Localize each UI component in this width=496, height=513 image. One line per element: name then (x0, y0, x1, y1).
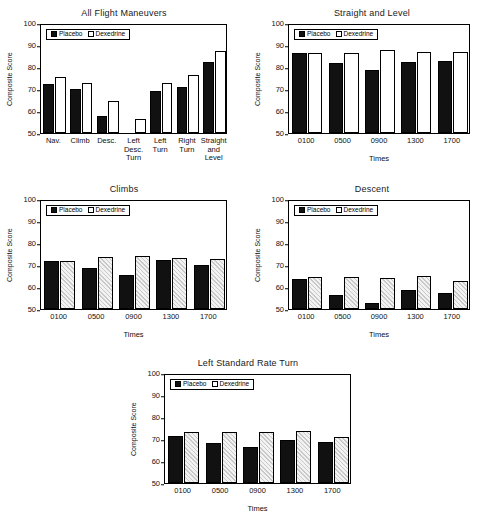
chart-title: Descent (248, 184, 496, 194)
y-tick-label: 70 (152, 436, 160, 444)
bar-dexedrine (417, 52, 432, 133)
y-tick-label: 70 (276, 86, 284, 94)
chart-panel: Straight and LevelComposite Score1009080… (248, 0, 496, 176)
bars-area (289, 201, 469, 309)
bar-group (202, 375, 239, 483)
y-tick-label: 80 (28, 64, 36, 72)
legend-label: Placebo (59, 207, 83, 214)
bar-placebo (365, 303, 380, 309)
bar-dexedrine (172, 258, 187, 309)
y-tick-label: 100 (271, 20, 284, 28)
bar-placebo (150, 91, 161, 133)
bar-placebo (156, 260, 171, 309)
bar-placebo (438, 293, 453, 309)
y-tick-label: 90 (28, 42, 36, 50)
bar-dexedrine (308, 277, 323, 309)
bar-dexedrine (135, 256, 150, 309)
y-tick-label: 90 (276, 218, 284, 226)
bar-placebo (401, 290, 416, 309)
legend: PlaceboDexedrine (46, 205, 130, 216)
y-tick-label: 100 (271, 196, 284, 204)
bar-placebo (168, 436, 183, 483)
x-axis-label: Times (40, 330, 227, 339)
bar-group (153, 201, 190, 309)
bar-placebo (177, 87, 188, 133)
swatch-dexedrine (336, 31, 342, 37)
bar-group (175, 25, 202, 133)
x-axis-label: Times (164, 504, 351, 513)
bar-group (116, 201, 153, 309)
y-axis-label: Composite Score (130, 374, 137, 484)
legend-item-dexedrine: Dexedrine (336, 207, 374, 214)
legend-label: Placebo (307, 207, 331, 214)
chart-title: Straight and Level (248, 8, 496, 18)
bar-group (325, 25, 361, 133)
swatch-placebo (51, 31, 57, 37)
bar-placebo (97, 116, 108, 133)
bar-dexedrine (296, 431, 311, 483)
legend-item-dexedrine: Dexedrine (88, 207, 126, 214)
bar-placebo (206, 443, 221, 483)
bar-dexedrine (259, 432, 274, 483)
plot-frame: PlaceboDexedrine (40, 200, 227, 310)
bar-dexedrine (162, 83, 173, 133)
bar-group (240, 375, 277, 483)
bar-placebo (203, 62, 214, 134)
bar-dexedrine (60, 261, 75, 309)
chart-panel: DescentComposite Score1009080706050Place… (248, 178, 496, 354)
legend-label: Dexedrine (220, 381, 250, 388)
bar-group (362, 201, 398, 309)
bar-placebo (292, 279, 307, 309)
bar-placebo (82, 268, 97, 309)
bar-group (201, 25, 228, 133)
legend: PlaceboDexedrine (294, 29, 378, 40)
bar-dexedrine (108, 101, 119, 133)
bar-placebo (194, 265, 209, 309)
y-tick-label: 60 (276, 108, 284, 116)
y-tick-label: 100 (23, 20, 36, 28)
bar-group (148, 25, 175, 133)
x-axis-label: Times (288, 154, 470, 163)
bar-placebo (438, 61, 453, 133)
legend-label: Placebo (59, 31, 83, 38)
swatch-placebo (299, 207, 305, 213)
y-axis-label: Composite Score (254, 24, 261, 134)
y-tick-label: 50 (28, 130, 36, 138)
bar-group (398, 25, 434, 133)
x-axis-ticks: Nav.ClimbDesc.Left Desc. TurnLeft TurnRi… (40, 137, 227, 167)
plot-frame: PlaceboDexedrine (40, 24, 227, 134)
bar-group (435, 201, 471, 309)
bar-dexedrine (55, 77, 66, 133)
y-axis-ticks: 1009080706050 (266, 24, 284, 134)
bar-group (398, 201, 434, 309)
y-tick-label: 80 (152, 414, 160, 422)
legend: PlaceboDexedrine (170, 379, 254, 390)
y-tick-label: 60 (276, 284, 284, 292)
bar-dexedrine (453, 52, 468, 133)
y-tick-label: 90 (28, 218, 36, 226)
y-tick-label: 60 (28, 108, 36, 116)
legend-item-placebo: Placebo (299, 207, 331, 214)
bar-group (325, 201, 361, 309)
legend-label: Dexedrine (96, 31, 126, 38)
bar-dexedrine (308, 53, 323, 133)
bar-group (289, 25, 325, 133)
bar-dexedrine (417, 276, 432, 309)
legend-label: Dexedrine (96, 207, 126, 214)
y-tick-label: 80 (28, 240, 36, 248)
bar-dexedrine (344, 53, 359, 133)
bars-area (41, 201, 226, 309)
y-axis-label: Composite Score (6, 24, 13, 134)
bar-group (94, 25, 121, 133)
bar-dexedrine (380, 278, 395, 309)
chart-title: Left Standard Rate Turn (124, 358, 372, 368)
bar-placebo (43, 84, 54, 133)
bar-placebo (401, 62, 416, 133)
bars-area (289, 25, 469, 133)
legend: PlaceboDexedrine (294, 205, 378, 216)
swatch-dexedrine (88, 31, 94, 37)
plot-frame: PlaceboDexedrine (164, 374, 351, 484)
y-tick-label: 70 (28, 86, 36, 94)
x-tick-label: 1700 (429, 313, 475, 322)
plot-frame: PlaceboDexedrine (288, 200, 470, 310)
